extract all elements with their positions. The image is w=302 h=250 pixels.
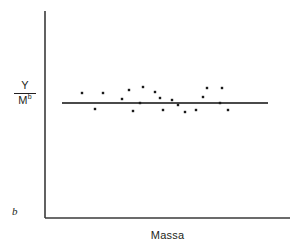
scatter-plot-figure: Y Mb b Massa — [0, 0, 302, 250]
y-axis-denominator-base: M — [18, 94, 27, 106]
data-point — [142, 86, 144, 88]
data-point — [219, 102, 221, 104]
data-point — [162, 109, 164, 111]
data-point — [94, 108, 96, 110]
data-point — [139, 102, 141, 104]
x-axis-label: Massa — [45, 229, 290, 241]
y-axis-label: Y Mb — [10, 80, 40, 106]
data-point — [128, 89, 130, 91]
data-point — [227, 109, 229, 111]
data-point — [81, 92, 83, 94]
y-axis-denominator: Mb — [10, 95, 40, 106]
data-point — [206, 87, 208, 89]
data-point — [154, 91, 156, 93]
y-axis-numerator: Y — [10, 80, 40, 92]
data-point — [132, 110, 134, 112]
data-point — [102, 92, 104, 94]
plot-canvas — [0, 0, 302, 250]
data-point — [159, 97, 161, 99]
data-point — [171, 99, 173, 101]
data-point — [184, 111, 186, 113]
data-point — [121, 98, 123, 100]
data-point — [202, 96, 204, 98]
exponent-marker-label: b — [12, 205, 18, 217]
data-point — [221, 87, 223, 89]
y-axis-denominator-exponent: b — [28, 93, 32, 100]
data-point — [195, 109, 197, 111]
data-point — [177, 104, 179, 106]
